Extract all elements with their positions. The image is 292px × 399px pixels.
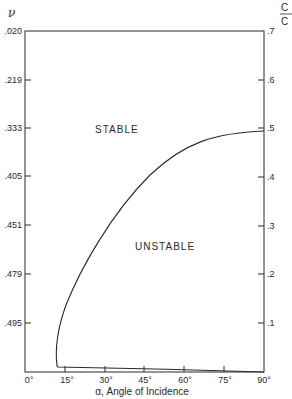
ratio-denominator: C [281,16,288,27]
right-tick-label: .1 [267,318,275,328]
left-tick-label: .479 [4,269,22,279]
lower-boundary-curve [57,366,264,372]
left-tick-label: .333 [4,123,22,133]
right-tick-label: .6 [267,75,275,85]
right-tick-label: .7 [267,26,275,36]
left-tick-label: .020 [4,26,22,36]
x-tick-label: 30° [99,375,113,385]
x-axis-title: α, Angle of Incidence [95,386,189,397]
right-axis-title: C C [280,2,292,27]
right-axis-labels: .7 .6 .5 .4 .3 .2 .1 [267,26,275,328]
x-tick-label: 75° [218,375,232,385]
x-tick-label: 90° [257,375,271,385]
left-axis-title: ν [8,6,15,20]
x-tick-label: 45° [138,375,152,385]
x-tick-label: 15° [60,375,74,385]
left-tick-label: .495 [4,318,22,328]
right-tick-label: .2 [267,269,275,279]
left-axis-ticks [25,80,31,323]
left-axis-labels: .020 .219 .333 .405 .451 .479 .495 [4,26,22,328]
x-tick-label: 60° [178,375,192,385]
right-axis-ticks [258,80,264,323]
left-tick-label: .405 [4,171,22,181]
chart: .020 .219 .333 .405 .451 .479 .495 .7 .6… [0,0,292,399]
right-tick-label: .3 [267,221,275,231]
x-tick-label: 0° [25,375,34,385]
x-axis-labels: 0° 15° 30° 45° 60° 75° 90° [25,375,272,385]
stable-label: STABLE [95,124,139,135]
right-tick-label: .5 [267,123,275,133]
left-tick-label: .451 [4,220,22,230]
ratio-numerator: C [281,2,288,13]
right-tick-label: .4 [267,172,275,182]
left-tick-label: .219 [4,75,22,85]
unstable-label: UNSTABLE [135,241,195,252]
